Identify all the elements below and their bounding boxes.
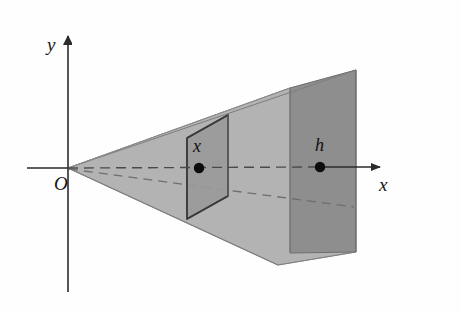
base-center-dot: [315, 162, 325, 172]
origin-label: O: [54, 173, 68, 194]
geometry-diagram: O x y x h: [0, 0, 460, 312]
x-axis-label: x: [378, 174, 388, 195]
cross-section-center-dot: [194, 163, 204, 173]
y-axis-label: y: [45, 34, 56, 55]
solid-base-face: [290, 70, 356, 253]
base-h-label: h: [315, 135, 324, 155]
figure-container: O x y x h: [0, 0, 460, 312]
cross-section-x-label: x: [192, 136, 201, 156]
